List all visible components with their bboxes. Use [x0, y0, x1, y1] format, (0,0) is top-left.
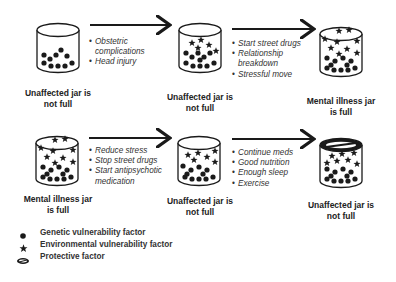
- transition-r2-a: Reduce stress Stop street drugs Start an…: [89, 146, 175, 187]
- bullet-item: Stop street drugs: [89, 156, 175, 166]
- bullet-item: Good nutrition: [232, 158, 293, 168]
- bullet-item: Continue meds: [232, 148, 293, 158]
- label-line: Mental illness jar: [296, 96, 386, 107]
- transition-r1-b: Start street drugs Relationship breakdow…: [232, 39, 301, 80]
- jar-row2-mental-illness-full: [36, 135, 78, 185]
- label-line: Unaffected jar is: [155, 196, 245, 207]
- label-line: Unaffected jar is: [13, 88, 103, 99]
- label-line: not full: [155, 207, 245, 218]
- legend-label: Environmental vulnerability factor: [40, 240, 172, 249]
- jar-row2-unaffected-partial: [178, 137, 220, 186]
- label-line: Mental illness jar: [13, 194, 103, 205]
- jar-label-r1-1: Unaffected jar is not full: [13, 88, 103, 109]
- legend-item-genetic: Genetic vulnerability factor: [12, 226, 172, 238]
- label-line: Unaffected jar is: [296, 200, 386, 211]
- jar-label-r2-3: Unaffected jar is not full: [296, 200, 386, 221]
- label-line: Unaffected jar is: [155, 92, 245, 103]
- legend: Genetic vulnerability factor Environment…: [12, 226, 172, 262]
- bullet-item: Exercise: [232, 179, 293, 189]
- jar-label-r2-2: Unaffected jar is not full: [155, 196, 245, 217]
- bullet-item: Enough sleep: [232, 168, 293, 178]
- bullet-item: Obstetriccomplications: [89, 37, 145, 57]
- bullet-item: Reduce stress: [89, 146, 175, 156]
- legend-item-environmental: Environmental vulnerability factor: [12, 238, 172, 250]
- transition-r1-a: Obstetriccomplications Head injury: [89, 37, 145, 68]
- bullet-item: Head injury: [89, 57, 145, 67]
- jar-row1-unaffected-genetic-only: [37, 24, 79, 73]
- label-line: not full: [155, 103, 245, 114]
- transition-r2-b: Continue meds Good nutrition Enough slee…: [232, 148, 293, 189]
- bullet-item: Relationship breakdown: [232, 49, 294, 69]
- jar-label-r1-3: Mental illness jar is full: [296, 96, 386, 117]
- jar-row1-unaffected-partial: [179, 24, 221, 73]
- jar-row1-mental-illness-full: [320, 26, 362, 76]
- jar-row2-unaffected-protected: [320, 139, 362, 188]
- legend-label: Genetic vulnerability factor: [40, 228, 146, 237]
- jar-label-r1-2: Unaffected jar is not full: [155, 92, 245, 113]
- legend-item-protective: Protective factor: [12, 250, 172, 262]
- label-line: not full: [296, 211, 386, 222]
- legend-label: Protective factor: [40, 252, 105, 261]
- jar-label-r2-1: Mental illness jar is full: [13, 194, 103, 215]
- bullet-item: Start street drugs: [232, 39, 301, 49]
- bullet-item: Stressful move: [232, 70, 301, 80]
- label-line: is full: [13, 205, 103, 216]
- label-line: is full: [296, 107, 386, 118]
- bullet-item: Start antipsychotic medication: [89, 166, 175, 186]
- label-line: not full: [13, 99, 103, 110]
